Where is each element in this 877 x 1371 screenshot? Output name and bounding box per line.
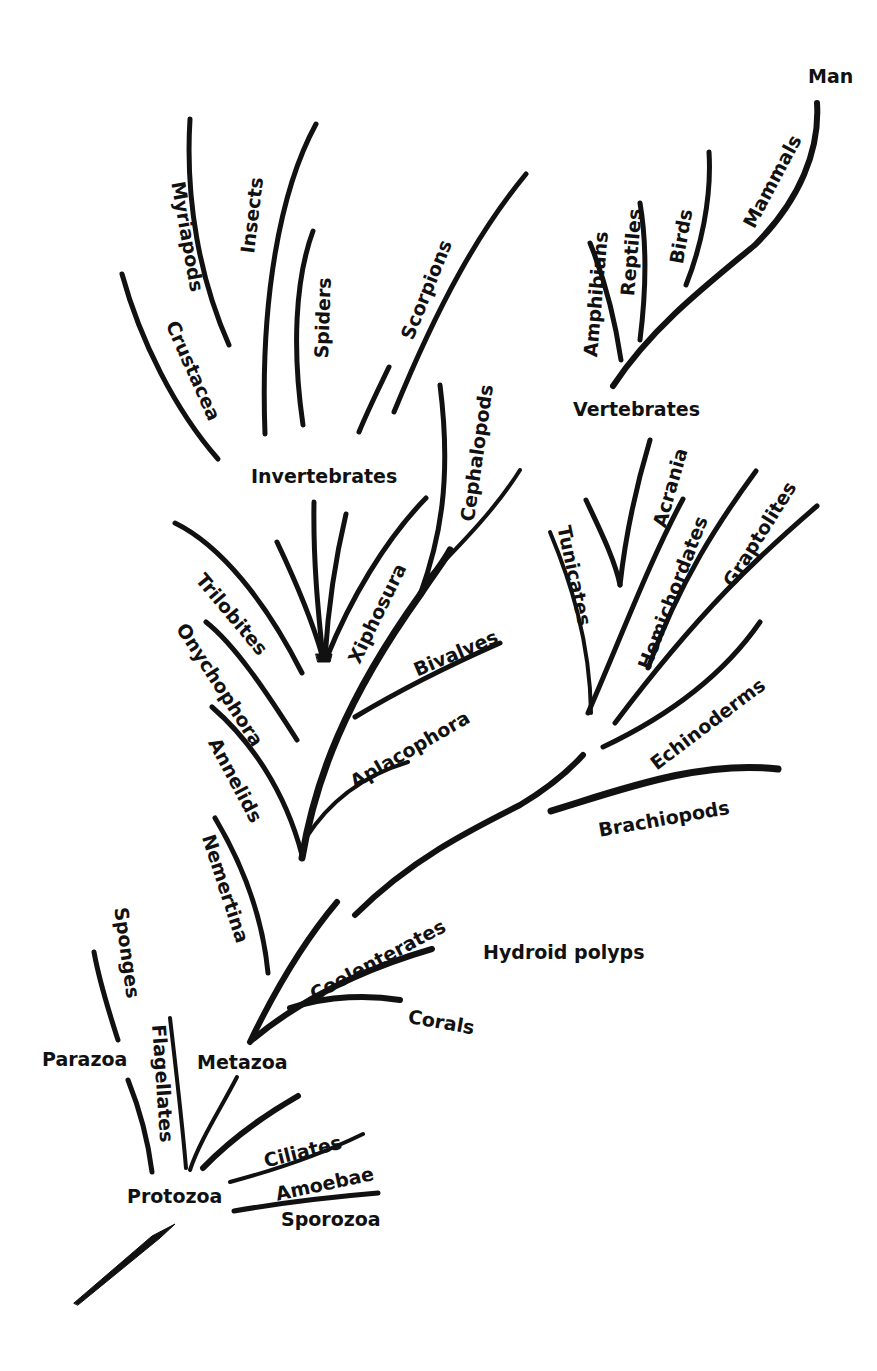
label-invertebrates: Invertebrates xyxy=(251,467,397,486)
branch-coelenterates-main xyxy=(250,902,337,1042)
branch-insects xyxy=(264,124,316,434)
branch-acrania xyxy=(620,440,650,585)
label-metazoa: Metazoa xyxy=(197,1053,288,1072)
branch-scorpions-short xyxy=(359,367,389,432)
label-hydroid-polyps: Hydroid polyps xyxy=(483,943,645,962)
label-vertebrates: Vertebrates xyxy=(573,400,700,419)
branch-sponges xyxy=(94,952,118,1040)
label-man: Man xyxy=(808,67,853,86)
branch-graptolites xyxy=(615,506,817,723)
fan-node xyxy=(316,654,332,662)
label-protozoa: Protozoa xyxy=(127,1187,222,1206)
label-spiders: Spiders xyxy=(312,277,334,359)
root-trunk xyxy=(74,1224,175,1305)
branch-hydroid-polyps xyxy=(252,949,432,1040)
branch-parazoa-lower xyxy=(128,1080,152,1172)
branch-acrania-left xyxy=(586,500,620,585)
branch-brachiopods xyxy=(551,767,778,811)
label-sporozoa: Sporozoa xyxy=(281,1210,381,1229)
label-parazoa: Parazoa xyxy=(42,1050,127,1069)
branch-main-stem xyxy=(355,755,583,915)
